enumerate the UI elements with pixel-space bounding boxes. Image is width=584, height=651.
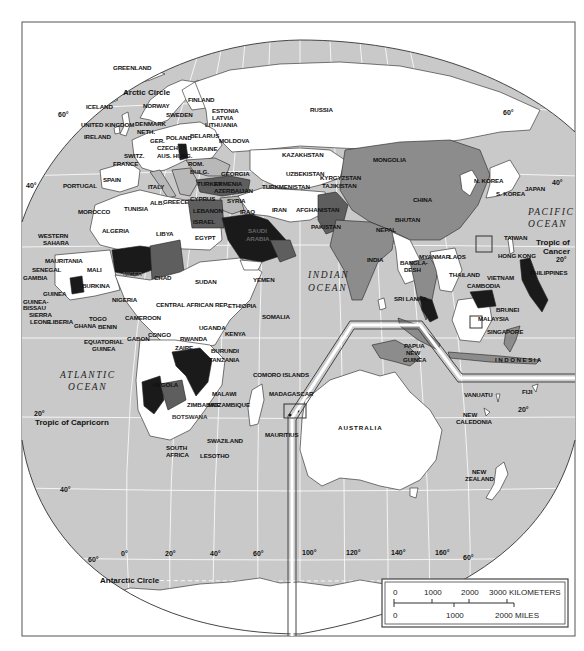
label-hong-kong: HONG KONG xyxy=(498,252,536,259)
scale-km-0: 0 xyxy=(393,588,398,597)
label-congo: CONGO xyxy=(148,331,171,338)
label-singapore: SINGAPORE xyxy=(487,328,523,335)
label-italy: ITALY xyxy=(148,183,165,190)
label-south-africa-2: AFRICA xyxy=(166,451,189,458)
label-western-sahara-1: WESTERN xyxy=(38,232,69,239)
label-france: FRANCE xyxy=(113,160,138,167)
label-madagascar: MADAGASCAR xyxy=(269,390,314,397)
label-turkmenistan: TURKMENISTAN xyxy=(262,183,310,190)
atlantic-ocean-label-1: ATLANTIC xyxy=(59,370,116,380)
label-ukraine: UKRAINE xyxy=(190,145,218,152)
label-gabon: GABON xyxy=(127,335,150,342)
label-ghana: GHANA xyxy=(74,322,97,329)
label-tunisia: TUNISIA xyxy=(124,205,149,212)
scale-bar: 0 1000 2000 3000 KILOMETERS 0 1000 2000 … xyxy=(382,579,568,627)
label-nepal: NEPAL xyxy=(376,226,396,233)
label-algeria: ALGERIA xyxy=(102,227,130,234)
label-gambia: GAMBIA xyxy=(23,274,48,281)
label-denmark: DENMARK xyxy=(135,120,167,127)
lat-40n-left: 40° xyxy=(26,182,37,189)
label-mauritania: MAURITANIA xyxy=(45,257,83,264)
label-guinea-bissau-2: BISSAU xyxy=(23,304,46,311)
label-burundi: BURUNDI xyxy=(211,347,239,354)
label-s-korea: S. KOREA xyxy=(496,190,526,197)
indian-ocean-label-2: OCEAN xyxy=(308,283,347,293)
label-new-caledonia-1: NEW xyxy=(463,411,477,418)
label-latvia: LATVIA xyxy=(212,114,234,121)
label-malaysia: MALAYSIA xyxy=(478,315,510,322)
label-rwanda: RWANDA xyxy=(180,335,208,342)
label-norway: NORWAY xyxy=(143,102,171,109)
scale-mi-0: 0 xyxy=(393,611,398,620)
label-greece: GREECE xyxy=(163,198,189,205)
label-eq-guinea-1: EQUATORIAL xyxy=(84,338,124,345)
lon-40: 40° xyxy=(210,550,221,557)
label-ireland: IRELAND xyxy=(84,133,111,140)
label-new-zealand-1: NEW xyxy=(472,468,486,475)
label-kazakhstan: KAZAKHSTAN xyxy=(282,151,324,158)
label-new-zealand-2: ZEALAND xyxy=(465,475,494,482)
label-tanzania: TANZANIA xyxy=(209,356,240,363)
label-indonesia: I N D O N E S I A xyxy=(495,356,542,363)
label-n-korea: N. KOREA xyxy=(474,177,504,184)
label-cameroon: CAMEROON xyxy=(125,314,162,321)
label-lebanon: LEBANON xyxy=(193,207,224,214)
scale-mi-1000: 1000 xyxy=(446,611,464,620)
label-new-caledonia-2: CALEDONIA xyxy=(456,418,493,425)
label-mauritius: MAURITIUS xyxy=(265,431,298,438)
label-lithuania: LITHUANIA xyxy=(205,121,238,128)
label-bulg: BULG. xyxy=(190,168,209,175)
label-car: CENTRAL AFRICAN REP. xyxy=(156,301,229,308)
lat-60n-left: 60° xyxy=(58,111,69,118)
label-sierra-leone-2: LEONE xyxy=(30,318,51,325)
label-burkina: BURKINA xyxy=(82,282,110,289)
label-senegal: SENEGAL xyxy=(32,266,62,273)
label-vanuatu: VANUATU xyxy=(464,391,493,398)
scale-km-3000: 3000 KILOMETERS xyxy=(489,588,561,597)
label-china: CHINA xyxy=(413,196,433,203)
lon-120: 120° xyxy=(346,549,361,556)
label-azerbaijan: AZERBAIJAN xyxy=(214,187,254,194)
label-chad: CHAD xyxy=(154,274,172,281)
label-india: INDIA xyxy=(367,256,384,263)
label-portugal: PORTUGAL xyxy=(63,182,97,189)
label-uganda: UGANDA xyxy=(199,324,226,331)
scale-km-1000: 1000 xyxy=(424,588,442,597)
lat-40n-right: 40° xyxy=(552,179,563,186)
label-spain: SPAIN xyxy=(103,176,122,183)
label-fiji: FIJI xyxy=(522,388,533,395)
label-pakistan: PAKISTAN xyxy=(311,223,342,230)
lat-20s-right: 20° xyxy=(518,406,529,413)
atlantic-ocean-label-2: OCEAN xyxy=(68,382,107,392)
label-vietnam: VIETNAM xyxy=(487,274,514,281)
label-japan: JAPAN xyxy=(525,185,546,192)
label-moldova: MOLDOVA xyxy=(219,137,250,144)
label-comoro: COMORO ISLANDS xyxy=(253,371,309,378)
label-ethiopia: ETHIOPIA xyxy=(228,302,257,309)
label-iraq: IRAQ xyxy=(240,208,255,215)
label-mali: MALI xyxy=(87,266,102,273)
label-png-2: NEW xyxy=(406,349,420,356)
label-png-1: PAPUA xyxy=(404,342,425,349)
label-poland: POLAND xyxy=(166,134,192,141)
label-rom: ROM. xyxy=(188,160,204,167)
label-benin: BENIN xyxy=(98,323,117,330)
label-swaziland: SWAZILAND xyxy=(207,437,244,444)
lat-60s-right: 60° xyxy=(463,554,474,561)
label-iran: IRAN xyxy=(272,206,287,213)
lon-140: 140° xyxy=(391,549,406,556)
yemen-shape xyxy=(240,260,262,270)
label-mozambique: MOZAMBIQUE xyxy=(208,401,250,408)
label-belarus: BELARUS xyxy=(190,132,219,139)
label-myanmar: MYANMAR xyxy=(419,253,451,260)
label-philippines: PHILIPPINES xyxy=(530,269,567,276)
label-cambodia: CAMBODIA xyxy=(467,282,501,289)
lat-40s-left: 40° xyxy=(60,486,71,493)
label-nigeria: NIGERIA xyxy=(112,296,138,303)
label-australia: AUSTRALIA xyxy=(338,424,383,431)
label-georgia: GEORGIA xyxy=(221,170,250,177)
pacific-ocean-label-2: OCEAN xyxy=(528,219,567,229)
label-russia: RUSSIA xyxy=(310,106,333,113)
label-syria: SYRIA xyxy=(227,197,246,204)
indian-ocean-label-1: INDIAN xyxy=(307,270,349,280)
